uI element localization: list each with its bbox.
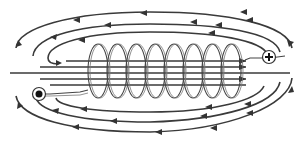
arrow-left-icon xyxy=(190,19,197,25)
negative-terminal xyxy=(33,88,46,101)
arrow-left-icon xyxy=(110,118,117,124)
positive-terminal xyxy=(263,51,276,64)
arrow-left-icon xyxy=(244,101,251,107)
arrow-left-icon xyxy=(104,22,111,28)
bottom-field-lines xyxy=(16,78,294,135)
arrow-right-icon xyxy=(56,60,62,66)
arrow-left-icon xyxy=(50,34,57,40)
solenoid-diagram: Magnetic field lines around a solenoid xyxy=(0,0,299,145)
inner-field-lines xyxy=(10,58,290,85)
arrow-left-icon xyxy=(72,124,79,130)
arrow-left-icon xyxy=(140,10,147,16)
solenoid-coil xyxy=(40,44,285,98)
arrow-up-icon xyxy=(287,40,294,47)
arrow-left-icon xyxy=(80,106,87,112)
arrow-left-icon xyxy=(240,9,247,15)
arrow-left-icon xyxy=(155,129,162,135)
arrow-up-icon xyxy=(17,102,23,109)
